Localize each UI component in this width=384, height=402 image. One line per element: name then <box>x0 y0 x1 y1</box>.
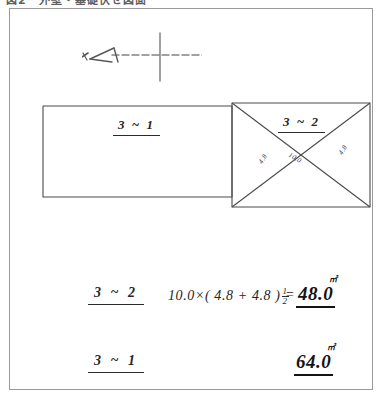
result-unit-superscript-3-1: ㎡ <box>327 341 335 352</box>
expr-operator-3-2: × <box>195 288 205 303</box>
calculation-label-3-1: 3 ~ 1 <box>88 353 144 373</box>
room-label-3-1: 3 ~ 1 <box>113 117 160 136</box>
north-arrow-svg <box>82 31 202 87</box>
result-value-3-2: 48.0 <box>296 283 335 308</box>
floor-plan-diagram <box>30 95 380 217</box>
floor-plan-svg <box>30 95 380 217</box>
page-frame: 3 ~ 1 3 ~ 2 4.8 10.0 4.8 3 ~ 2 10.0×( 4.… <box>9 8 373 390</box>
calculation-expression-3-2: 10.0×( 4.8 + 4.8 )12 <box>168 287 290 306</box>
result-group-3-2: 48.0 ㎡ <box>296 283 335 308</box>
result-value-3-1: 64.0 <box>294 351 333 376</box>
calculation-label-3-2: 3 ~ 2 <box>88 285 144 305</box>
result-group-3-1: 64.0 ㎡ <box>294 351 333 376</box>
expr-paren-3-2: ( 4.8 + 4.8 ) <box>205 288 281 303</box>
north-arrow-icon <box>82 31 202 87</box>
result-unit-superscript-3-2: ㎡ <box>329 273 337 284</box>
calculation-row-3-1: 3 ~ 1 64.0 ㎡ <box>10 349 384 391</box>
room-label-3-2: 3 ~ 2 <box>278 114 325 133</box>
calculation-row-3-2: 3 ~ 2 10.0×( 4.8 + 4.8 )12 = 48.0 ㎡ <box>10 281 384 323</box>
document-header-caption: 図2 外壁・基礎伏せ図面 <box>6 0 166 5</box>
equals-sign-3-2: = <box>285 287 294 303</box>
expr-prefix-3-2: 10.0 <box>168 288 195 303</box>
